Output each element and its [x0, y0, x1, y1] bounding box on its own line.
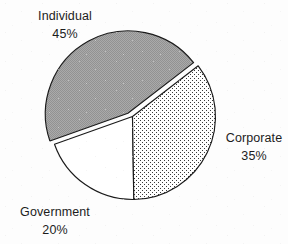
pie-label-individual-name: Individual — [23, 8, 107, 26]
pie-label-corporate-name: Corporate — [222, 130, 286, 148]
pie-label-corporate-value: 35% — [222, 148, 286, 166]
pie-label-government: Government 20% — [8, 204, 102, 240]
pie-label-government-value: 20% — [8, 222, 102, 240]
pie-chart-figure: Individual 45% Corporate 35% Government … — [0, 0, 288, 244]
pie-label-individual: Individual 45% — [23, 8, 107, 44]
pie-label-government-name: Government — [8, 204, 102, 222]
pie-label-individual-value: 45% — [23, 26, 107, 44]
pie-label-corporate: Corporate 35% — [222, 130, 286, 166]
